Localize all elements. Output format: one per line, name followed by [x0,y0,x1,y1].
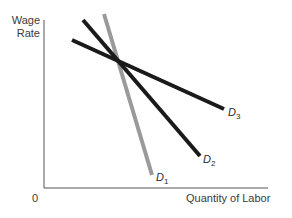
x-axis-label: Quantity of Labor [186,192,270,204]
labor-demand-diagram [0,0,292,218]
demand-curve-d3 [72,40,224,109]
label-d3: D3 [228,106,240,121]
label-d2: D2 [203,153,215,168]
label-d1: D1 [156,171,168,186]
origin-label: 0 [32,192,38,204]
